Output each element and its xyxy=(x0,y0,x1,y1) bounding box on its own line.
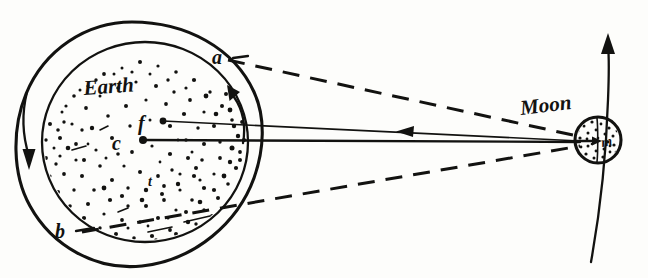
label-moon: Moon xyxy=(518,90,573,120)
arrowhead-moon-orbit xyxy=(601,33,615,54)
earth-rotation-arrow-right xyxy=(227,85,244,143)
leader-dash-a xyxy=(233,56,248,58)
line-c-to-moon xyxy=(143,140,580,142)
diagram-canvas: Earth Moon a b c f t m xyxy=(0,0,648,278)
label-point-t: t xyxy=(148,174,153,189)
point-marker-c xyxy=(139,136,147,144)
arrowhead-toward-earth xyxy=(396,126,414,137)
label-earth: Earth xyxy=(82,73,135,101)
label-point-f: f xyxy=(138,112,147,135)
earth-rotation-arrow-left xyxy=(23,92,36,170)
earth-moon-tidal-diagram: Earth Moon a b c f t m xyxy=(0,0,648,278)
earth-bulge-outline xyxy=(16,22,262,267)
earth-tidal-envelope xyxy=(16,22,262,267)
point-marker-f xyxy=(160,118,167,125)
label-point-b: b xyxy=(55,220,65,242)
label-point-a: a xyxy=(212,46,222,68)
moon-body xyxy=(575,116,621,165)
label-moon-center-m: m xyxy=(600,133,613,150)
label-point-c: c xyxy=(112,132,121,154)
